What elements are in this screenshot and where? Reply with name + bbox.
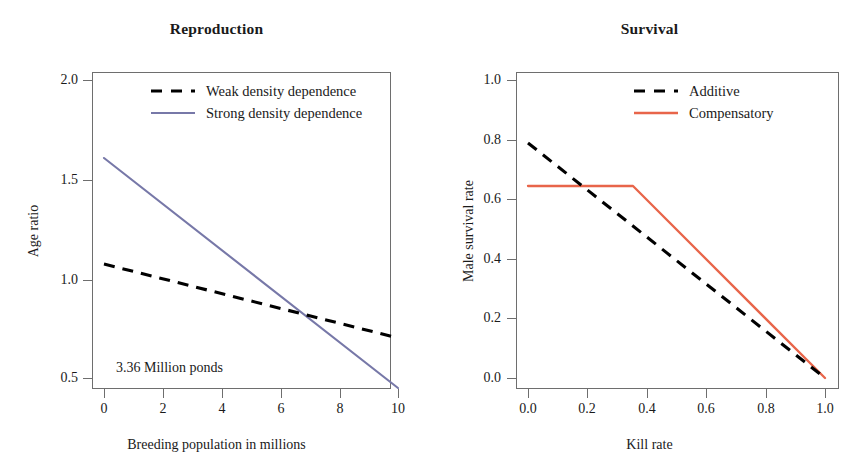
- panel-survival: Survival 1.0 0.8 0.6 0.4 0.2 0.0 0.0 0.2…: [433, 0, 866, 476]
- line-weak-density-dependence: [104, 264, 398, 338]
- line-strong-density-dependence: [104, 158, 398, 388]
- legend-label: Weak density dependence: [206, 83, 356, 100]
- panel-reproduction: Reproduction 2.0 1.5 1.0 0.5 0 2 4 6 8 1…: [0, 0, 433, 476]
- legend-item-compensatory: Compensatory: [633, 102, 774, 124]
- legend-item-weak-density-dependence: Weak density dependence: [150, 80, 362, 102]
- legend-reproduction: Weak density dependence Strong density d…: [150, 80, 362, 124]
- legend-survival: Additive Compensatory: [633, 80, 774, 124]
- legend-label: Strong density dependence: [206, 105, 362, 122]
- legend-solid-line-icon: [150, 106, 196, 120]
- annotation-ponds: 3.36 Million ponds: [116, 360, 223, 376]
- figure-canvas: Reproduction 2.0 1.5 1.0 0.5 0 2 4 6 8 1…: [0, 0, 866, 476]
- series-lines-survival: [433, 0, 866, 476]
- line-additive: [528, 143, 825, 378]
- legend-label: Compensatory: [689, 105, 774, 122]
- series-lines-reproduction: [0, 0, 433, 476]
- legend-item-additive: Additive: [633, 80, 774, 102]
- line-compensatory: [528, 186, 825, 378]
- legend-dashed-line-icon: [150, 84, 196, 98]
- legend-solid-line-icon: [633, 106, 679, 120]
- legend-item-strong-density-dependence: Strong density dependence: [150, 102, 362, 124]
- legend-dashed-line-icon: [633, 84, 679, 98]
- legend-label: Additive: [689, 83, 740, 100]
